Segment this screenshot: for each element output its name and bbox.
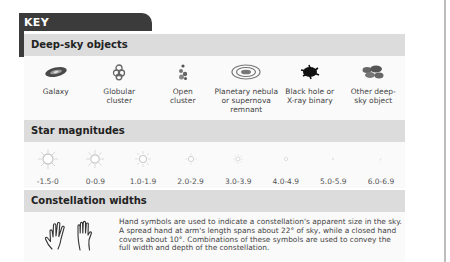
constellation-description: Hand symbols are used to indicate a cons… [119, 218, 404, 253]
deep-sky-item-black-hole: Black hole or X-ray binary [278, 61, 342, 114]
magnitude-item: 5.0-5.9 [310, 148, 358, 186]
key-title: KEY [19, 13, 152, 31]
magnitude-item: 2.0-2.9 [167, 148, 215, 186]
star-icon [282, 148, 290, 170]
star-icon [85, 148, 105, 170]
spread-hand-icon [44, 220, 68, 256]
deep-sky-item-open: Open cluster [151, 61, 215, 114]
star-icon [232, 148, 244, 170]
star-icon [134, 148, 152, 170]
black-hole-icon [299, 61, 321, 83]
deep-sky-item-galaxy: Galaxy [24, 61, 88, 114]
magnitude-item: -1.5-0 [24, 148, 72, 186]
galaxy-icon [44, 61, 68, 83]
star-icon [184, 148, 198, 170]
deep-sky-header: Deep-sky objects [24, 34, 405, 56]
other-deep-sky-icon [361, 61, 385, 83]
deep-sky-item-nebula: Planetary nebula or supernova remnant [215, 61, 279, 114]
constellation-widths-section: Hand symbols are used to indicate a cons… [24, 212, 405, 262]
magnitude-item: 4.0-4.9 [262, 148, 310, 186]
magnitude-item: 1.0-1.9 [119, 148, 167, 186]
star-magnitudes-section: -1.5-0 0-0.9 1.0-1.9 2.0-2.9 3.0-3.9 4.0… [24, 142, 405, 188]
constellation-widths-header: Constellation widths [24, 190, 405, 212]
star-icon [330, 148, 336, 170]
closed-hand-icon [76, 220, 94, 256]
star-icon [37, 148, 59, 170]
globular-cluster-icon [112, 61, 126, 83]
magnitude-item: 6.0-6.9 [357, 148, 405, 186]
deep-sky-item-globular: Globular cluster [88, 61, 152, 114]
star-icon [378, 148, 383, 170]
magnitude-item: 3.0-3.9 [214, 148, 262, 186]
planetary-nebula-icon [231, 61, 261, 83]
right-divider [444, 0, 446, 262]
deep-sky-section: Galaxy Globular cluster Open cluster Pla… [24, 56, 405, 120]
star-magnitudes-header: Star magnitudes [24, 120, 405, 142]
open-cluster-icon [177, 61, 189, 83]
magnitude-item: 0-0.9 [72, 148, 120, 186]
deep-sky-item-other: Other deep-sky object [342, 61, 406, 114]
